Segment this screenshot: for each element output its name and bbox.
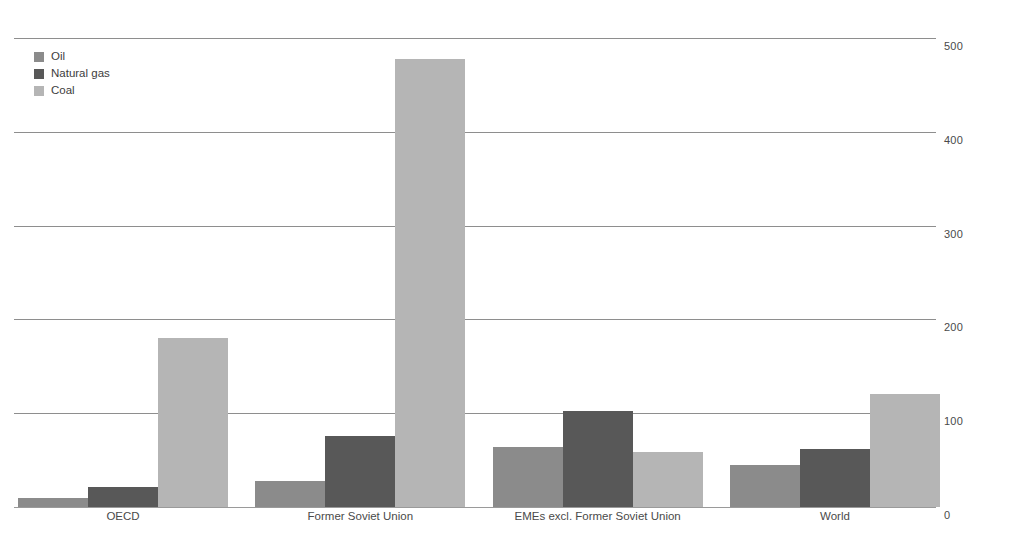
chart-legend: Oil Natural gas Coal — [34, 48, 110, 99]
bar-group — [255, 38, 465, 507]
bar-group — [493, 38, 703, 507]
bar — [493, 447, 563, 507]
y-tick-label-300: 300 — [944, 229, 963, 240]
legend-item-oil: Oil — [34, 48, 110, 65]
legend-swatch-coal-icon — [34, 86, 44, 96]
bar-group — [730, 38, 940, 507]
bar — [325, 436, 395, 507]
y-tick-label-500: 500 — [944, 41, 963, 52]
bar — [88, 487, 158, 507]
legend-label-oil: Oil — [51, 51, 65, 63]
y-tick-label-200: 200 — [944, 322, 963, 333]
bar — [870, 394, 940, 507]
y-tick-label-100: 100 — [944, 416, 963, 427]
category-label: World — [730, 511, 940, 523]
category-label: OECD — [18, 511, 228, 523]
gridline-0 — [14, 507, 936, 508]
legend-item-coal: Coal — [34, 82, 110, 99]
bar — [730, 465, 800, 507]
bar — [158, 338, 228, 507]
legend-label-coal: Coal — [51, 85, 75, 97]
bar — [395, 59, 465, 507]
bar — [563, 411, 633, 507]
legend-swatch-oil-icon — [34, 52, 44, 62]
bar — [255, 481, 325, 507]
y-tick-label-0: 0 — [944, 510, 950, 521]
bar-chart: 0100200300400500 OECDFormer Soviet Union… — [0, 0, 1009, 542]
plot-area — [14, 38, 936, 507]
legend-item-natural-gas: Natural gas — [34, 65, 110, 82]
bar — [18, 498, 88, 507]
legend-swatch-natural-gas-icon — [34, 69, 44, 79]
bar-group — [18, 38, 228, 507]
y-tick-label-400: 400 — [944, 135, 963, 146]
category-label: EMEs excl. Former Soviet Union — [493, 511, 703, 523]
category-label: Former Soviet Union — [255, 511, 465, 523]
legend-label-natural-gas: Natural gas — [51, 68, 110, 80]
bar — [800, 449, 870, 507]
bar — [633, 452, 703, 507]
